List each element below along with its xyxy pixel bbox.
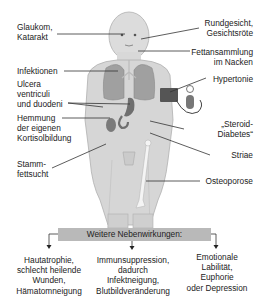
label-striae: Striae [231,150,253,160]
label-line: Katarakt [17,32,53,42]
label-line: fettsucht [17,169,48,179]
label-ulcera: Ulcera ventriculi und duodeni [17,79,63,109]
label-line: im Nacken [191,57,253,67]
label-line: Stamm- [17,159,48,169]
label-line: Ulcera [17,79,63,89]
label-glaukom: Glaukom, Katarakt [17,22,53,42]
effect-haut: Hautatrophie, schlecht heilende Wunden, … [10,255,88,296]
effect-emotional: Emotionale Labilität, Euphorie oder Depr… [180,252,254,293]
label-line: Fettansammlung [191,47,253,57]
body-silhouette [85,12,173,228]
label-line: ventriculi [17,89,63,99]
label-fettansammlung: Fettansammlung im Nacken [191,47,253,67]
effect-line: Wunden, [10,275,88,285]
label-line: Hemmung [17,113,71,123]
further-effects-header: Weitere Nebenwirkungen: [58,228,211,241]
label-line: Infektionen [17,66,58,76]
effect-line: Immunsuppression, [92,255,174,265]
effect-immun: Immunsuppression, dadurch Infektneigung,… [92,255,174,296]
label-line: „Steroid- [217,119,253,129]
label-rundgesicht: Rundgesicht, Gesichtsröte [205,18,253,38]
label-line: Diabetes“ [217,129,253,139]
label-line: und duodeni [17,99,63,109]
label-line: Rundgesicht, [205,18,253,28]
label-line: Kortisolbildung [17,133,71,143]
effect-line: Hautatrophie, [10,255,88,265]
effect-line: Hämatomneigung [10,286,88,296]
effect-line: Emotionale [180,252,254,262]
label-stammfettsucht: Stamm- fettsucht [17,159,48,179]
effect-line: Labilität, [180,262,254,272]
effect-line: schlecht heilende [10,265,88,275]
label-line: der eigenen [17,123,71,133]
label-line: Striae [231,150,253,160]
label-line: Glaukom, [17,22,53,32]
label-hypertonie: Hypertonie [213,74,253,84]
label-line: Gesichtsröte [205,28,253,38]
effect-line: Euphorie [180,272,254,282]
effect-line: oder Depression [180,283,254,293]
label-line: Hypertonie [213,74,253,84]
label-line: Osteoporose [205,176,253,186]
effect-line: dadurch [92,265,174,275]
label-hemmung: Hemmung der eigenen Kortisolbildung [17,113,71,143]
label-steroid-diabetes: „Steroid- Diabetes“ [217,119,253,139]
effect-line: Infektneigung, [92,275,174,285]
label-osteoporose: Osteoporose [205,176,253,186]
effect-line: Blutbildveränderung [92,286,174,296]
arrow-heads [47,245,219,250]
label-infektionen: Infektionen [17,66,58,76]
